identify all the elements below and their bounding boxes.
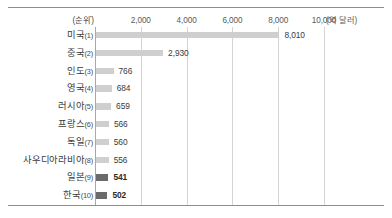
country-rank: (6) [85,120,93,129]
data-bar[interactable] [96,68,114,74]
country-name: 인도 [67,66,85,76]
data-bar[interactable] [96,103,111,109]
chart-row[interactable]: 러시아(5)659 [0,98,392,115]
country-rank: (9) [85,173,93,182]
bar-value-label: 541 [113,169,127,186]
chart-row[interactable]: 프랑스(6)566 [0,116,392,133]
bar-value-label: 566 [114,116,128,133]
data-bar[interactable] [96,192,107,198]
chart-row[interactable]: 한국(10)502 [0,187,392,204]
country-rank: (5) [85,102,93,111]
category-axis-label: 인도(3) [67,63,93,80]
bar-value-label: 502 [112,187,126,204]
data-bar[interactable] [96,157,109,163]
category-axis-label: 일본(9) [67,169,93,186]
country-name: 러시아 [58,101,84,111]
x-axis-tick-label: 8,000 [268,14,288,27]
bar-chart-figure: (순위) (억 달러) 2,0004,0006,0008,00010,000 미… [0,0,392,218]
country-rank: (1) [85,31,93,40]
country-rank: (3) [85,67,93,76]
bar-value-label: 2,930 [168,45,188,62]
country-rank: (2) [85,49,93,58]
chart-row[interactable]: 사우디아라비아(8)556 [0,152,392,169]
rank-header-tick-mark [90,16,93,17]
top-divider-rule [8,7,384,8]
bar-value-label: 766 [119,63,133,80]
bar-rows-container: 미국(1)8,010중국(2)2,930인도(3)766영국(4)684러시아(… [0,27,392,205]
bar-value-label: 8,010 [284,27,304,44]
data-bar[interactable] [96,121,109,127]
x-axis-tick-label-row: (순위) (억 달러) 2,0004,0006,0008,00010,000 [0,14,392,27]
category-axis-label: 한국(10) [63,187,93,204]
bar-value-label: 556 [114,152,128,169]
chart-row[interactable]: 일본(9)541 [0,169,392,186]
category-axis-label: 영국(4) [67,80,93,97]
bar-value-label: 560 [114,134,128,151]
chart-row[interactable]: 미국(1)8,010 [0,27,392,44]
category-axis-label: 중국(2) [67,45,93,62]
bottom-divider-rule [8,205,384,206]
category-axis-label: 사우디아라비아(8) [23,152,93,169]
country-rank: (10) [81,191,93,200]
country-name: 독일 [67,137,85,147]
chart-row[interactable]: 독일(7)560 [0,134,392,151]
data-bar[interactable] [96,85,112,91]
country-rank: (7) [85,138,93,147]
x-axis-tick-label: 6,000 [222,14,242,27]
country-rank: (4) [85,84,93,93]
x-axis-tick-label: 2,000 [131,14,151,27]
category-axis-label: 러시아(5) [58,98,93,115]
bar-value-label: 684 [117,80,131,97]
data-bar[interactable] [96,50,163,56]
country-name: 한국 [63,190,81,200]
category-axis-label: 프랑스(6) [58,116,93,133]
country-name: 영국 [67,83,85,93]
category-axis-label: 미국(1) [67,27,93,44]
category-axis-label: 독일(7) [67,134,93,151]
data-bar[interactable] [96,32,279,38]
country-name: 프랑스 [58,119,84,129]
x-axis-tick-label: 10,000 [312,14,336,27]
x-axis-tick-label: 4,000 [177,14,197,27]
chart-row[interactable]: 영국(4)684 [0,80,392,97]
chart-row[interactable]: 중국(2)2,930 [0,45,392,62]
bar-value-label: 659 [116,98,130,115]
country-rank: (8) [85,156,93,165]
country-name: 일본 [67,172,85,182]
country-name: 미국 [67,30,85,40]
data-bar[interactable] [96,174,108,180]
data-bar[interactable] [96,139,109,145]
country-name: 사우디아라비아 [23,155,85,165]
chart-row[interactable]: 인도(3)766 [0,63,392,80]
country-name: 중국 [67,48,85,58]
